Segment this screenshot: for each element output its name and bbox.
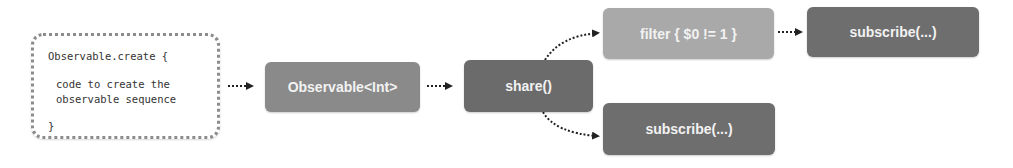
- observable-int-label: Observable<Int>: [288, 79, 398, 95]
- share-label: share(): [505, 78, 552, 94]
- filter-node: filter { $0 != 1 }: [603, 8, 774, 59]
- arrow-share-to-filter: [545, 33, 598, 60]
- arrow-share-to-subscribe-bottom: [543, 112, 598, 136]
- share-node: share(): [464, 60, 593, 112]
- subscribe-bottom-label: subscribe(...): [645, 121, 732, 137]
- observable-int-node: Observable<Int>: [265, 62, 420, 112]
- observable-create-code-box: Observable.create { code to create the o…: [31, 33, 220, 139]
- subscribe-top-label: subscribe(...): [849, 24, 936, 40]
- code-line-1: Observable.create {: [48, 50, 168, 62]
- code-line-3: observable sequence: [56, 93, 176, 105]
- code-line-4: }: [48, 120, 54, 132]
- subscribe-bottom-node: subscribe(...): [603, 103, 775, 155]
- filter-label: filter { $0 != 1 }: [640, 26, 737, 42]
- subscribe-top-node: subscribe(...): [807, 7, 979, 57]
- code-line-2: code to create the: [56, 78, 170, 90]
